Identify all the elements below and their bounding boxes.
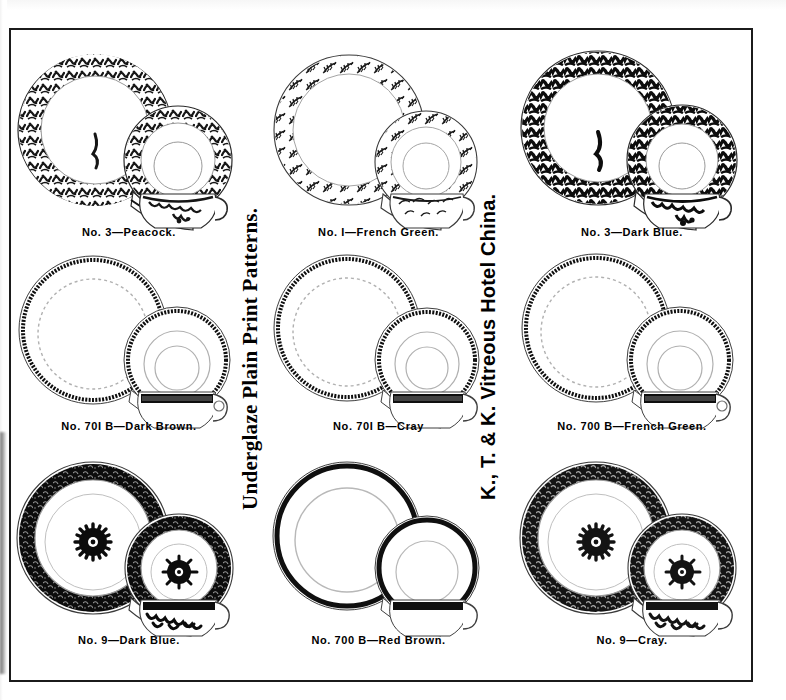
pattern-cell-cray-701b[interactable]: No. 70I B—Cray — [271, 242, 486, 438]
pattern-cell-dark-brown-701b[interactable]: No. 70I B—Dark Brown. — [13, 242, 245, 438]
pattern-caption: No. I—French Green. — [271, 226, 486, 238]
china-illustration-french-green — [271, 42, 486, 242]
scan-artifact-top — [0, 0, 786, 10]
pattern-caption: No. 700 B—Red Brown. — [271, 634, 486, 646]
pattern-caption: No. 3—Dark Blue. — [516, 226, 748, 238]
pattern-cell-dark-blue-3[interactable]: No. 3—Dark Blue. — [516, 42, 748, 242]
china-illustration-cray-701b — [271, 242, 486, 438]
china-illustration-dark-brown — [13, 242, 245, 438]
china-illustration-red-brown — [271, 450, 486, 650]
pattern-caption: No. 9—Cray. — [516, 634, 748, 646]
pattern-cell-dark-blue-9[interactable]: No. 9—Dark Blue. — [13, 450, 245, 650]
china-illustration-french-green-700b — [516, 242, 748, 438]
pattern-caption: No. 9—Dark Blue. — [13, 634, 245, 646]
pattern-cell-french-green-1[interactable]: No. I—French Green. — [271, 42, 486, 242]
pattern-grid: No. 3—Peacock. — [11, 30, 755, 684]
scan-artifact-left-smudge — [0, 432, 6, 674]
china-illustration-peacock — [13, 42, 245, 242]
catalog-page-frame: No. 3—Peacock. — [9, 28, 753, 682]
pattern-cell-french-green-700b[interactable]: No. 700 B—French Green. — [516, 242, 748, 438]
pattern-cell-peacock[interactable]: No. 3—Peacock. — [13, 42, 245, 242]
pattern-cell-red-brown-700b[interactable]: No. 700 B—Red Brown. — [271, 450, 486, 650]
heading-left-text: Underglaze Plain Print Patterns. — [238, 208, 263, 510]
china-illustration-dark-blue-3 — [516, 42, 748, 242]
pattern-caption: No. 70I B—Cray — [271, 420, 486, 432]
pattern-caption: No. 3—Peacock. — [13, 226, 245, 238]
pattern-caption: No. 70I B—Dark Brown. — [13, 420, 245, 432]
pattern-caption: No. 700 B—French Green. — [516, 420, 748, 432]
pattern-cell-cray-9[interactable]: No. 9—Cray. — [516, 450, 748, 650]
heading-right-text: K., T. & K. Vitreous Hotel China. — [477, 194, 500, 500]
china-illustration-dark-blue-9 — [13, 450, 245, 650]
china-illustration-cray-9 — [516, 450, 748, 650]
